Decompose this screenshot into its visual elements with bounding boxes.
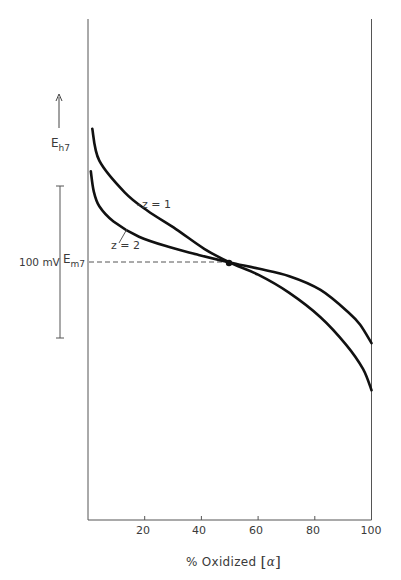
- reference-label-em7: Em7: [63, 253, 85, 265]
- x-axis-title: % Oxidized [α]: [186, 553, 281, 571]
- x-title-text: % Oxidized: [186, 555, 260, 569]
- arrow-up-icon: [56, 94, 62, 128]
- x-tick-label-100: 100: [361, 524, 382, 537]
- y-axis-label-eh7: Eh7: [51, 137, 70, 149]
- x-axis-ticks: [145, 516, 315, 520]
- midpoint-dot: [226, 260, 232, 266]
- x-tick-label-20: 20: [136, 524, 150, 537]
- eh7-sub: h7: [59, 143, 70, 153]
- em7-main: E: [63, 252, 71, 266]
- curve-z1: [92, 129, 371, 391]
- x-tick-label-60: 60: [249, 524, 263, 537]
- em7-sub: m7: [71, 259, 86, 269]
- curve-label-z1: z = 1: [142, 198, 171, 211]
- x-title-close-bracket: ]: [275, 553, 281, 571]
- x-title-alpha: α: [267, 555, 275, 569]
- curve-z2: [91, 171, 372, 343]
- scale-label-100mv: 100 mV: [19, 257, 60, 268]
- chart-canvas: [0, 0, 401, 580]
- x-tick-label-40: 40: [192, 524, 206, 537]
- x-tick-label-80: 80: [306, 524, 320, 537]
- eh7-main: E: [51, 136, 59, 150]
- curve-label-z2: z = 2: [111, 239, 140, 252]
